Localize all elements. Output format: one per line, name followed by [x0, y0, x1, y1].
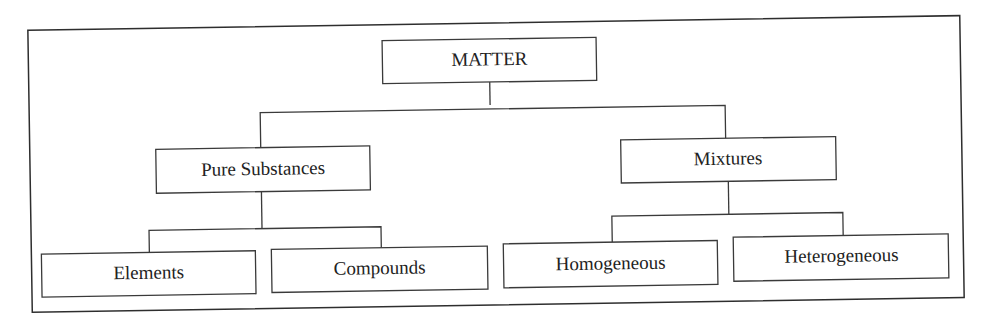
node-label-pure-substances: Pure Substances: [201, 157, 325, 180]
node-elements: Elements: [41, 251, 256, 297]
node-label-elements: Elements: [113, 261, 184, 283]
node-label-compounds: Compounds: [334, 256, 426, 278]
diagram-canvas: MATTER Pure Substances Mixtures Elements…: [0, 0, 985, 326]
connector-mixtures-down: [728, 180, 729, 214]
node-label-homogeneous: Homogeneous: [556, 252, 666, 275]
node-mixtures: Mixtures: [621, 137, 837, 183]
connector-pure-down: [261, 191, 262, 229]
node-compounds: Compounds: [271, 246, 488, 292]
matter-classification-diagram: MATTER Pure Substances Mixtures Elements…: [0, 0, 985, 326]
node-matter: MATTER: [382, 37, 597, 83]
node-pure-substances: Pure Substances: [156, 146, 371, 193]
node-label-matter: MATTER: [451, 48, 528, 70]
node-heterogeneous: Heterogeneous: [733, 234, 949, 281]
node-label-heterogeneous: Heterogeneous: [784, 244, 898, 267]
node-label-mixtures: Mixtures: [693, 147, 762, 169]
node-homogeneous: Homogeneous: [503, 240, 718, 287]
